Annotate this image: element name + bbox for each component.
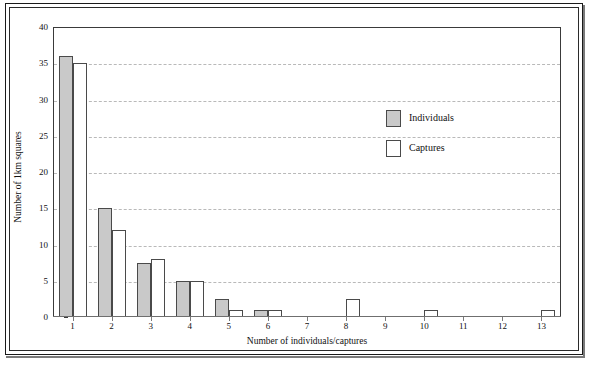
x-axis-tick-label: 8 [331,321,361,332]
bar-captures-8 [346,299,360,317]
y-axis-tick-label: 35 [22,58,48,68]
bar-captures-4 [190,281,204,317]
x-axis-tick-label: 5 [214,321,244,332]
x-axis-tick-label: 7 [292,321,322,332]
bar-individuals-5 [215,299,229,317]
x-axis-tick-label: 3 [136,321,166,332]
x-axis-title: Number of individuals/captures [53,336,561,346]
x-axis-tick-label: 10 [409,321,439,332]
x-axis-tick-label: 9 [370,321,400,332]
bar-individuals-2 [98,208,112,317]
x-axis-tick-label: 13 [526,321,556,332]
y-axis-tick-mark [64,317,68,318]
x-axis-tick-label: 11 [448,321,478,332]
y-axis-tick-label: 30 [22,95,48,105]
x-axis-tick-label: 12 [487,321,517,332]
bar-captures-3 [151,259,165,317]
legend-swatch-captures [386,140,401,157]
y-axis-tick-label: 20 [22,167,48,177]
legend-swatch-individuals [386,110,401,127]
bar-individuals-1 [59,56,73,317]
bar-individuals-4 [176,281,190,317]
y-axis-tick-label: 5 [22,276,48,286]
y-axis-tick-label: 10 [22,240,48,250]
x-axis-tick-label: 1 [58,321,88,332]
y-axis-tick-label: 40 [22,22,48,32]
bar-captures-2 [112,230,126,317]
x-axis-tick-label: 2 [97,321,127,332]
x-axis-tick-label: 4 [175,321,205,332]
y-axis-tick-label: 0 [22,312,48,322]
y-axis-tick-label: 15 [22,203,48,213]
legend-label: Captures [409,142,445,153]
bar-individuals-3 [137,263,151,317]
y-axis-tick-label: 25 [22,131,48,141]
x-axis-tick-label: 6 [253,321,283,332]
legend-label: Individuals [409,112,454,123]
bar-chart: 0510152025303540 Number of 1km squares N… [0,0,591,365]
bar-captures-1 [73,63,87,317]
y-axis-title: Number of 1km squares [13,97,23,257]
bars-layer [53,27,561,317]
